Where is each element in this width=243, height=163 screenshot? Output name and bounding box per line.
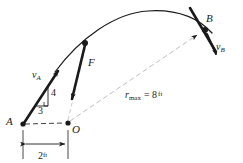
label-dimension-2ft: 2ft xyxy=(38,146,47,162)
rmax-value: = 8 xyxy=(144,89,157,100)
label-slope-run: 3 xyxy=(38,106,43,116)
dot-point-o xyxy=(65,120,70,125)
velocity-a-subscript: A xyxy=(36,74,40,82)
label-point-o: O xyxy=(72,124,80,135)
force-vector xyxy=(72,45,85,99)
velocity-b-subscript: B xyxy=(220,46,224,54)
label-force: F xyxy=(88,57,95,68)
node-dots xyxy=(20,27,208,127)
label-rmax: rmax= 8ft xyxy=(125,85,162,102)
rmax-dashed-line xyxy=(70,35,197,121)
rmax-unit: ft xyxy=(158,90,162,98)
dot-point-a xyxy=(20,121,25,126)
label-point-a: A xyxy=(6,116,13,127)
baseline-dashed-a-o xyxy=(25,123,65,124)
label-point-b: B xyxy=(206,13,213,24)
projectile-diagram: A O B vA vB F 4 3 rmax= 8ft 2ft xyxy=(0,0,243,163)
label-velocity-a: vA xyxy=(32,70,41,82)
dim-unit: ft xyxy=(43,151,47,159)
label-slope-rise: 4 xyxy=(51,88,56,98)
dot-force-origin xyxy=(82,40,88,46)
rmax-subscript: max xyxy=(129,94,141,102)
label-velocity-b: vB xyxy=(216,42,225,54)
trajectory-curve xyxy=(55,11,212,72)
